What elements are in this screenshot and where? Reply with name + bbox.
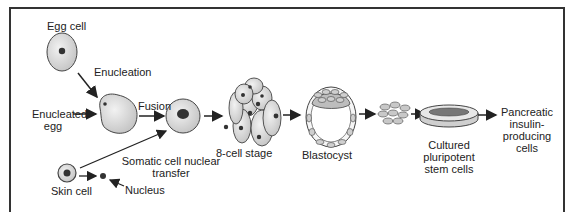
skin-cell-icon (58, 164, 76, 182)
label-cultured-stem-cells: Cultured pluripotent stem cells (419, 139, 479, 175)
nucleus-pointer-arrow (110, 180, 124, 186)
egg-cell-icon (47, 33, 77, 71)
label-blastocyst: Blastocyst (302, 149, 352, 161)
label-scnt-line2: transfer (152, 167, 189, 179)
label-enucleated-egg: Enucleated egg (32, 108, 74, 132)
label-skin-cell: Skin cell (51, 185, 92, 197)
nucleus-icon (100, 173, 106, 179)
label-nucleus: Nucleus (125, 184, 165, 196)
label-cultured-line3: stem cells (425, 163, 474, 175)
label-pancreatic-line1: Pancreatic (501, 106, 553, 118)
label-scnt-line1: Somatic cell nuclear (122, 155, 220, 167)
label-pancreatic-line4: cells (516, 142, 538, 154)
label-cultured-line2: pluripotent (423, 151, 474, 163)
label-scnt: Somatic cell nuclear transfer (116, 155, 226, 179)
blastocyst-icon (306, 87, 356, 148)
label-enucleation: Enucleation (94, 66, 152, 78)
label-enucleated-line1: Enucleated (32, 108, 87, 120)
label-pancreatic-cells: Pancreatic insulin- producing cells (499, 106, 555, 154)
eight-cell-stage-icon (224, 78, 281, 146)
cell-cluster-icon (378, 102, 410, 124)
enucleated-egg-icon (100, 94, 137, 133)
label-enucleated-line2: egg (44, 120, 62, 132)
label-pancreatic-line2: insulin- (510, 118, 545, 130)
label-egg-cell: Egg cell (47, 20, 86, 32)
petri-dish-icon (420, 105, 478, 127)
label-pancreatic-line3: producing (503, 130, 551, 142)
label-cultured-line1: Cultured (428, 139, 470, 151)
label-8-cell-stage: 8-cell stage (216, 147, 272, 159)
fused-cell-icon (166, 99, 200, 133)
label-fusion: Fusion (138, 100, 171, 112)
